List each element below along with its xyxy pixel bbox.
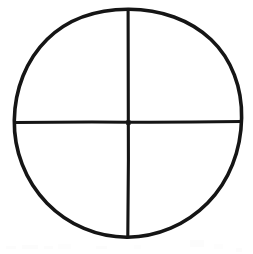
quartered-circle-figure: Quartered circle [0, 0, 253, 254]
faint-scan-noise [6, 240, 242, 252]
figure-canvas: Quartered circle A bla [0, 0, 253, 254]
center-intersection [126, 120, 130, 124]
